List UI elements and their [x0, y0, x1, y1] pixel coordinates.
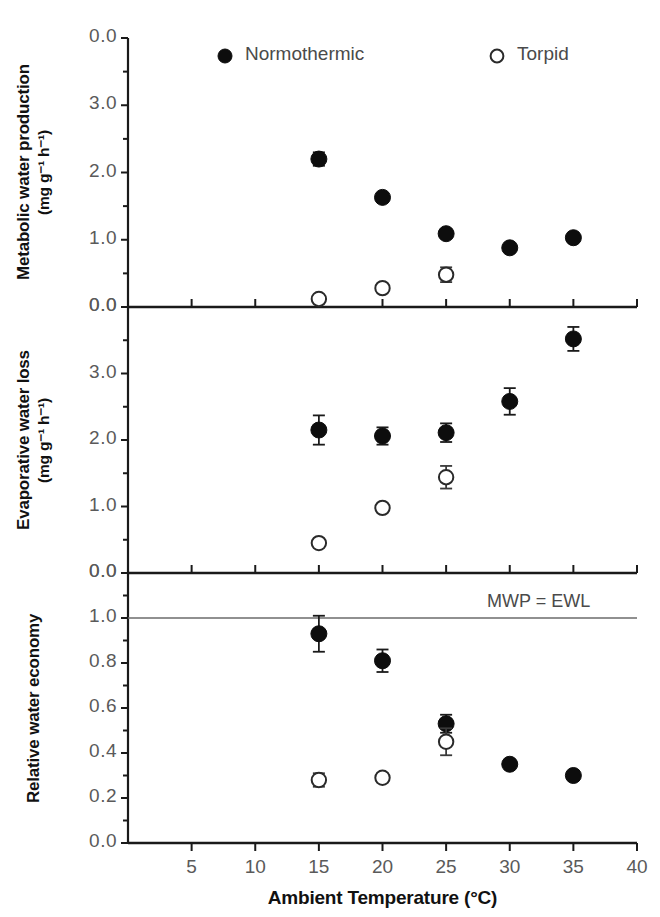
- data-point: [311, 616, 327, 652]
- data-point: [311, 151, 327, 167]
- data-point: [565, 230, 581, 246]
- y-tick-label: 0.2: [55, 785, 117, 807]
- y-tick-label: 0.8: [55, 650, 117, 672]
- x-tick-label: 40: [607, 856, 660, 878]
- data-point: [375, 501, 389, 515]
- data-point: [312, 536, 326, 550]
- x-tick-label: 20: [353, 856, 413, 878]
- marker-normothermic: [311, 626, 327, 642]
- data-point: [312, 773, 326, 787]
- y-axis-title-line1: Metabolic water production: [14, 65, 33, 281]
- y-tick-label: 0.0: [55, 830, 117, 852]
- panel-metabolic-water-production: [121, 38, 637, 307]
- panel-evaporative-water-loss: [121, 307, 637, 573]
- data-point: [565, 768, 581, 784]
- x-axis-title: Ambient Temperature (°C): [128, 887, 637, 909]
- data-point: [438, 226, 454, 242]
- legend-label-normothermic: Normothermic: [245, 43, 364, 65]
- data-point: [502, 756, 518, 772]
- data-point: [375, 771, 389, 785]
- marker-torpid: [439, 268, 453, 282]
- x-tick-label: 30: [480, 856, 540, 878]
- marker-normothermic: [565, 331, 581, 347]
- x-tick-label: 15: [289, 856, 349, 878]
- y-axis-title-evaporative-water-loss: Evaporative water loss (mg g⁻¹ h⁻¹): [14, 307, 53, 573]
- data-point: [502, 388, 518, 415]
- marker-normothermic: [502, 240, 518, 256]
- marker-torpid: [312, 536, 326, 550]
- x-tick-label: 10: [225, 856, 285, 878]
- data-point: [439, 267, 453, 282]
- data-point: [375, 189, 391, 205]
- y-tick-label: 0.4: [55, 740, 117, 762]
- figure-container: 0.03.02.01.00.0Metabolic water productio…: [0, 0, 660, 917]
- marker-normothermic: [438, 226, 454, 242]
- y-tick-label: 0.0: [55, 560, 117, 582]
- marker-torpid: [375, 281, 389, 295]
- data-point: [502, 240, 518, 256]
- data-point: [375, 650, 391, 673]
- marker-normothermic: [565, 230, 581, 246]
- data-point: [438, 423, 454, 442]
- marker-normothermic: [311, 422, 327, 438]
- figure-svg: [0, 0, 660, 917]
- y-tick-label: 0.6: [55, 695, 117, 717]
- marker-torpid: [375, 771, 389, 785]
- marker-torpid: [439, 470, 453, 484]
- marker-normothermic: [502, 393, 518, 409]
- y-tick-label: 1.0: [55, 494, 117, 516]
- marker-torpid: [312, 292, 326, 306]
- y-tick-label: 1.0: [55, 227, 117, 249]
- legend-marker-normothermic: [218, 49, 232, 63]
- data-point: [439, 466, 453, 489]
- data-point: [311, 415, 327, 444]
- x-tick-label: 5: [162, 856, 222, 878]
- y-axis-title-line2: (mg g⁻¹ h⁻¹): [35, 397, 52, 482]
- marker-normothermic: [438, 425, 454, 441]
- marker-normothermic: [502, 756, 518, 772]
- y-tick-label: 2.0: [55, 160, 117, 182]
- y-tick-label: 0.0: [55, 25, 117, 47]
- data-point: [375, 427, 391, 444]
- y-axis-title-line1: Evaporative water loss: [14, 350, 33, 530]
- y-axis-title-relative-water-economy: Relative water economy: [24, 573, 44, 843]
- marker-normothermic: [375, 428, 391, 444]
- panel-relative-water-economy: [121, 573, 637, 851]
- data-point: [375, 281, 389, 295]
- data-point: [565, 327, 581, 351]
- marker-normothermic: [565, 768, 581, 784]
- marker-torpid: [312, 773, 326, 787]
- y-axis-title-line2: (mg g⁻¹ h⁻¹): [35, 130, 52, 215]
- y-tick-label: 3.0: [55, 361, 117, 383]
- data-point: [312, 292, 326, 306]
- y-tick-label: 1.0: [55, 605, 117, 627]
- marker-torpid: [375, 501, 389, 515]
- legend-marker-torpid: [491, 50, 504, 63]
- y-axis-title-metabolic-water-production: Metabolic water production (mg g⁻¹ h⁻¹): [14, 38, 53, 307]
- y-tick-label: 3.0: [55, 92, 117, 114]
- x-tick-label: 35: [543, 856, 603, 878]
- marker-torpid: [439, 735, 453, 749]
- y-tick-label: 0.0: [55, 294, 117, 316]
- annotation-mwp-ewl: MWP = EWL: [487, 591, 590, 612]
- x-tick-label: 25: [416, 856, 476, 878]
- y-tick-label: 2.0: [55, 427, 117, 449]
- legend-label-torpid: Torpid: [517, 43, 569, 65]
- marker-normothermic: [375, 653, 391, 669]
- marker-normothermic: [375, 189, 391, 205]
- marker-normothermic: [311, 151, 327, 167]
